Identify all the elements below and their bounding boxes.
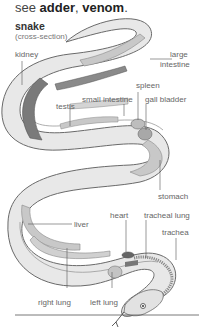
heart bbox=[122, 252, 134, 258]
label-testis: testis bbox=[56, 102, 75, 111]
gall-bladder bbox=[138, 128, 152, 140]
long-dark-organ bbox=[55, 66, 127, 90]
label-heart: heart bbox=[110, 211, 128, 220]
left-lung bbox=[108, 266, 122, 278]
label-kidney: kidney bbox=[15, 50, 38, 59]
label-right-lung: right lung bbox=[38, 298, 71, 307]
label-spleen: spleen bbox=[136, 81, 160, 90]
liver bbox=[22, 205, 80, 250]
label-gall-bladder: gall bladder bbox=[145, 95, 186, 104]
label-large-intestine-1: large bbox=[170, 50, 188, 59]
label-trachea: trachea bbox=[162, 228, 189, 237]
snake-head bbox=[124, 290, 163, 316]
label-small-intestine: small intestine bbox=[82, 95, 133, 104]
label-stomach: stomach bbox=[158, 192, 188, 201]
label-left-lung: left lung bbox=[90, 298, 118, 307]
snake-tongue bbox=[112, 312, 124, 327]
label-liver: liver bbox=[74, 220, 89, 229]
spleen bbox=[131, 119, 145, 129]
label-tracheal-lung: tracheal lung bbox=[144, 211, 190, 220]
label-large-intestine-2: intestine bbox=[160, 60, 190, 69]
